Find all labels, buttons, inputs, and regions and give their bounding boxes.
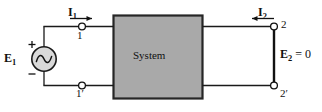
terminal-label-1: 1 bbox=[77, 30, 83, 41]
terminal-node-2p bbox=[271, 82, 278, 89]
terminal-node-2 bbox=[271, 23, 278, 30]
terminal-label-1p: 1′ bbox=[76, 88, 84, 99]
terminal-label-2: 2 bbox=[281, 19, 287, 30]
current-label-i1: I1 bbox=[68, 6, 77, 22]
circuit-diagram: E1 I1 I2 E2 = 0 1 1′ 2 2′ System bbox=[0, 0, 322, 112]
source-plus-icon bbox=[29, 41, 36, 48]
system-block-label: System bbox=[133, 50, 165, 61]
terminal-label-2p: 2′ bbox=[280, 88, 288, 99]
output-voltage-label: E2 = 0 bbox=[280, 48, 311, 64]
source-label: E1 bbox=[4, 52, 16, 68]
current-label-i2: I2 bbox=[258, 6, 267, 22]
